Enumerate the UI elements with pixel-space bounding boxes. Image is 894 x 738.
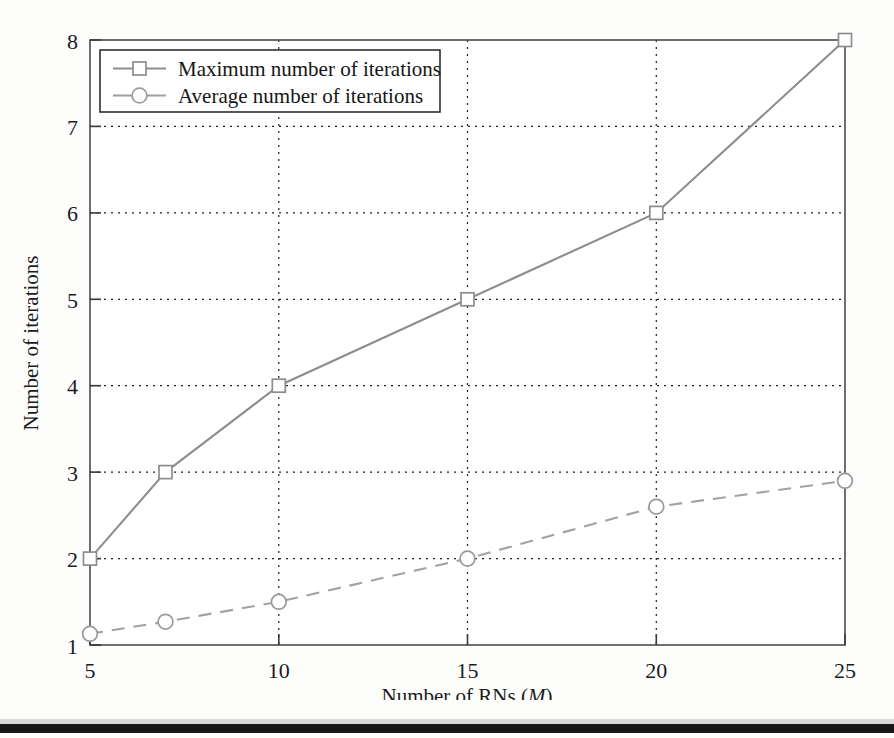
xtick-label-20: 20 xyxy=(645,658,667,683)
marker-max-x25 xyxy=(839,34,852,47)
page-bottom-rule xyxy=(0,724,894,733)
x-axis-label: Number of RNs (M) xyxy=(382,684,553,700)
xtick-label-5: 5 xyxy=(85,658,96,683)
svg-text:Number of RNs (M): Number of RNs (M) xyxy=(382,684,553,700)
legend-label-maximum: Maximum number of iterations xyxy=(178,57,441,81)
xtick-label-25: 25 xyxy=(834,658,856,683)
chart-figure: 8 7 6 5 4 3 2 1 5 10 15 20 25 Number of … xyxy=(0,0,894,700)
ytick-label-3: 3 xyxy=(67,461,78,486)
marker-max-x10 xyxy=(272,379,285,392)
y-tick-labels: 8 7 6 5 4 3 2 1 xyxy=(67,29,78,659)
ytick-label-1: 1 xyxy=(67,634,78,659)
marker-avg-x20 xyxy=(649,499,664,514)
marker-max-x15 xyxy=(461,293,474,306)
marker-max-x5 xyxy=(84,552,97,565)
x-axis-label-tail: ) xyxy=(545,684,552,700)
marker-avg-x10 xyxy=(271,594,286,609)
marker-avg-x7 xyxy=(158,614,173,629)
line-chart: 8 7 6 5 4 3 2 1 5 10 15 20 25 Number of … xyxy=(0,0,894,700)
ytick-label-7: 7 xyxy=(67,115,78,140)
marker-avg-x5 xyxy=(83,626,98,641)
legend-label-average: Average number of iterations xyxy=(178,84,423,108)
x-axis-label-symbol: M xyxy=(527,684,547,700)
ytick-label-2: 2 xyxy=(67,547,78,572)
marker-max-x20 xyxy=(650,206,663,219)
ytick-label-6: 6 xyxy=(67,201,78,226)
figure-page: 8 7 6 5 4 3 2 1 5 10 15 20 25 Number of … xyxy=(0,0,894,738)
marker-avg-x25 xyxy=(838,473,853,488)
xtick-label-10: 10 xyxy=(268,658,290,683)
ytick-label-4: 4 xyxy=(67,374,78,399)
marker-avg-x15 xyxy=(460,551,475,566)
chart-legend: Maximum number of iterations Average num… xyxy=(100,50,441,112)
x-tick-labels: 5 10 15 20 25 xyxy=(85,658,857,683)
xtick-label-15: 15 xyxy=(457,658,479,683)
legend-marker-square-icon xyxy=(133,62,146,75)
ytick-label-8: 8 xyxy=(67,29,78,54)
marker-max-x7 xyxy=(159,466,172,479)
ytick-label-5: 5 xyxy=(67,288,78,313)
y-axis-label: Number of iterations xyxy=(19,256,43,431)
legend-marker-circle-icon xyxy=(132,88,147,103)
x-axis-label-main: Number of RNs ( xyxy=(382,684,528,700)
